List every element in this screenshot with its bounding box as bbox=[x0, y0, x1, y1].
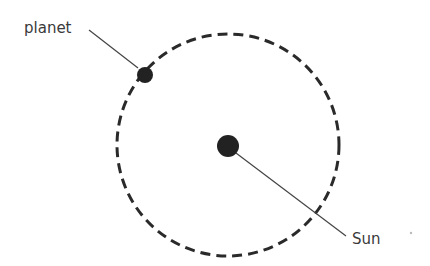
stray-dot bbox=[410, 232, 412, 234]
orbit-diagram: planet Sun bbox=[0, 0, 430, 266]
planet-body bbox=[137, 67, 153, 83]
sun-body bbox=[217, 135, 239, 157]
planet-leader-line bbox=[89, 30, 138, 68]
sun-label: Sun bbox=[352, 230, 381, 248]
planet-label: planet bbox=[24, 19, 72, 37]
